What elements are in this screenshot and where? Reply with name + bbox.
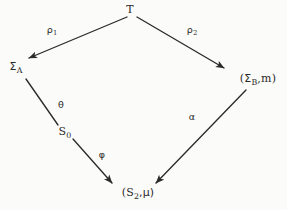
edge-phi-line [73, 139, 112, 183]
label-suffix: ,m) [257, 72, 276, 85]
label-base: θ [58, 99, 64, 110]
label-subscript: A [17, 66, 23, 75]
label-base: S [59, 125, 67, 138]
edge-rho-2-line [137, 17, 224, 68]
edge-theta-label: θ [58, 100, 64, 110]
node-sigma-a: ΣA [10, 61, 23, 74]
node-sigma-b-m: (ΣB,m) [240, 73, 276, 86]
label-base: α [189, 111, 195, 122]
edge-rho-1-line [29, 17, 127, 58]
label-subscript: 1 [53, 29, 57, 37]
label-subscript: 0 [66, 131, 71, 140]
edge-rho-1-label: ρ1 [47, 25, 58, 37]
label-base: φ [99, 149, 105, 160]
edge-theta-line [26, 79, 58, 125]
edge-rho-2-label: ρ2 [187, 25, 198, 37]
node-s2-mu: (S2,μ) [122, 187, 155, 200]
label-subscript: 2 [193, 29, 197, 37]
label-suffix: ,μ) [139, 186, 154, 199]
node-s0: S0 [59, 126, 72, 139]
label-base: Σ [244, 72, 251, 85]
node-t: T [126, 4, 134, 15]
edge-alpha-label: α [189, 112, 195, 122]
diagram-canvas: TΣA(ΣB,m)S0(S2,μ) ρ1ρ2θφα [0, 0, 287, 210]
edge-phi-label: φ [99, 150, 105, 160]
label-base: T [126, 3, 134, 16]
edge-alpha-line [156, 90, 246, 183]
diagram-arrows-layer [0, 0, 287, 210]
